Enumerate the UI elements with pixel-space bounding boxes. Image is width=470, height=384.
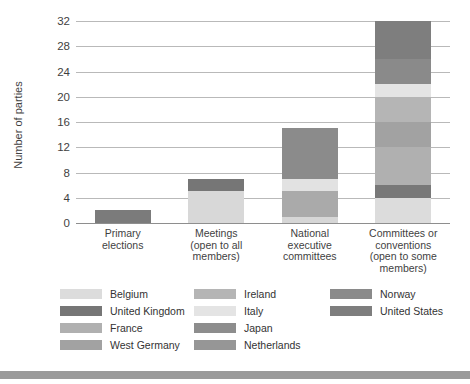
x-axis-category-line: committees bbox=[258, 251, 362, 263]
legend-label: United States bbox=[380, 305, 443, 317]
x-axis-category-label: Primaryelections bbox=[71, 228, 175, 251]
legend-label: West Germany bbox=[110, 339, 180, 351]
legend-label: Ireland bbox=[244, 288, 276, 300]
legend-column: BelgiumUnited KingdomFranceWest Germany bbox=[60, 286, 185, 354]
legend-item[interactable]: United Kingdom bbox=[60, 303, 185, 318]
legend: BelgiumUnited KingdomFranceWest GermanyI… bbox=[0, 286, 470, 348]
x-axis-category-line: members) bbox=[351, 263, 455, 275]
bar-segment[interactable] bbox=[375, 147, 431, 185]
x-axis-category-line: Committees or bbox=[351, 228, 455, 240]
legend-item[interactable]: Norway bbox=[330, 286, 443, 301]
x-axis-category-label: Meetings(open to allmembers) bbox=[164, 228, 268, 263]
bar-segment[interactable] bbox=[375, 84, 431, 97]
plot-area: 048121620242832 bbox=[76, 21, 450, 223]
x-axis-category-line: Meetings bbox=[164, 228, 268, 240]
x-axis-category-line: elections bbox=[71, 240, 175, 252]
y-axis-tick-label: 0 bbox=[42, 217, 70, 229]
y-axis-title-text: Number of parties bbox=[12, 50, 24, 200]
bar-segment[interactable] bbox=[95, 210, 151, 223]
x-axis-category-label: Committees orconventions(open to somemem… bbox=[351, 228, 455, 274]
y-axis-tick-label: 24 bbox=[42, 66, 70, 78]
legend-item[interactable]: France bbox=[60, 320, 185, 335]
y-axis-tick-label: 28 bbox=[42, 40, 70, 52]
legend-swatch bbox=[194, 340, 236, 350]
legend-swatch bbox=[60, 289, 102, 299]
legend-swatch bbox=[330, 306, 372, 316]
x-axis-category-line: members) bbox=[164, 251, 268, 263]
y-axis-title: Number of parties bbox=[12, 0, 24, 50]
bar-segment[interactable] bbox=[375, 97, 431, 122]
y-axis-tick-label: 16 bbox=[42, 116, 70, 128]
legend-item[interactable]: Ireland bbox=[194, 286, 301, 301]
bar-segment[interactable] bbox=[375, 198, 431, 223]
x-axis-category-label: Nationalexecutivecommittees bbox=[258, 228, 362, 263]
legend-swatch bbox=[60, 340, 102, 350]
x-axis-category-line: (open to some bbox=[351, 251, 455, 263]
legend-label: Netherlands bbox=[244, 339, 301, 351]
stacked-bar-chart: Number of parties 048121620242832 Primar… bbox=[0, 0, 470, 384]
y-axis-tick-label: 32 bbox=[42, 15, 70, 27]
legend-column: NorwayUnited States bbox=[330, 286, 443, 320]
legend-item[interactable]: West Germany bbox=[60, 337, 185, 352]
bar-segment[interactable] bbox=[282, 217, 338, 223]
legend-swatch bbox=[60, 306, 102, 316]
y-axis-tick-label: 4 bbox=[42, 192, 70, 204]
legend-swatch bbox=[330, 289, 372, 299]
legend-item[interactable]: Belgium bbox=[60, 286, 185, 301]
legend-label: United Kingdom bbox=[110, 305, 185, 317]
bar-segment[interactable] bbox=[282, 128, 338, 179]
bar-segment[interactable] bbox=[375, 59, 431, 84]
legend-item[interactable]: Japan bbox=[194, 320, 301, 335]
x-axis-labels: PrimaryelectionsMeetings(open to allmemb… bbox=[76, 228, 450, 280]
legend-label: Italy bbox=[244, 305, 263, 317]
stacked-bar[interactable] bbox=[188, 179, 244, 223]
legend-item[interactable]: United States bbox=[330, 303, 443, 318]
legend-label: Japan bbox=[244, 322, 273, 334]
legend-swatch bbox=[194, 323, 236, 333]
x-axis-category-line: National bbox=[258, 228, 362, 240]
y-axis-tick-label: 8 bbox=[42, 167, 70, 179]
bars-layer bbox=[76, 21, 450, 223]
stacked-bar[interactable] bbox=[95, 210, 151, 223]
legend-swatch bbox=[60, 323, 102, 333]
bar-segment[interactable] bbox=[188, 179, 244, 192]
bar-segment[interactable] bbox=[282, 191, 338, 216]
stacked-bar[interactable] bbox=[375, 21, 431, 223]
bar-segment[interactable] bbox=[188, 191, 244, 223]
bar-segment[interactable] bbox=[375, 185, 431, 198]
bar-segment[interactable] bbox=[282, 179, 338, 192]
legend-column: IrelandItalyJapanNetherlands bbox=[194, 286, 301, 354]
footer-band bbox=[0, 371, 470, 379]
legend-label: Belgium bbox=[110, 288, 148, 300]
bar-segment[interactable] bbox=[375, 21, 431, 59]
x-axis-line bbox=[76, 223, 450, 224]
bar-segment[interactable] bbox=[375, 122, 431, 147]
legend-item[interactable]: Italy bbox=[194, 303, 301, 318]
y-axis-tick-label: 20 bbox=[42, 91, 70, 103]
x-axis-category-line: Primary bbox=[71, 228, 175, 240]
stacked-bar[interactable] bbox=[282, 128, 338, 223]
y-axis-tick-label: 12 bbox=[42, 141, 70, 153]
legend-swatch bbox=[194, 289, 236, 299]
legend-label: France bbox=[110, 322, 143, 334]
legend-swatch bbox=[194, 306, 236, 316]
legend-label: Norway bbox=[380, 288, 416, 300]
legend-item[interactable]: Netherlands bbox=[194, 337, 301, 352]
